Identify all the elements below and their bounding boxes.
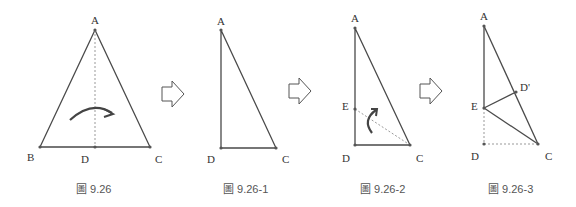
figure-9-26-1: A D C 圖 9.26-1 [207, 15, 289, 195]
transition-arrow-icon [420, 78, 442, 104]
label-d: D [81, 153, 89, 165]
figure-9-26-2: A E D C 圖 9.26-2 [342, 12, 423, 195]
label-d: D [207, 153, 215, 165]
transition-arrow-icon [289, 78, 311, 104]
label-a: A [351, 12, 359, 24]
fold-arrow-icon [368, 110, 376, 133]
label-e: E [342, 100, 349, 112]
label-d: D [342, 152, 350, 164]
label-c: C [155, 153, 162, 165]
caption-9-26-1: 圖 9.26-1 [223, 183, 268, 195]
label-c: C [416, 152, 423, 164]
label-d-prime: D' [520, 81, 530, 93]
caption-9-26: 圖 9.26 [76, 183, 111, 195]
figure-9-26-3: A E D' D C 圖 9.26-3 [471, 10, 552, 195]
caption-9-26-2: 圖 9.26-2 [360, 183, 405, 195]
label-a: A [91, 14, 99, 26]
transition-arrow-icon [162, 81, 184, 107]
segment-ed-prime [484, 92, 516, 108]
label-c: C [282, 153, 289, 165]
label-a: A [480, 10, 488, 22]
triangle-adc [221, 30, 276, 148]
caption-9-26-3: 圖 9.26-3 [488, 183, 533, 195]
label-a: A [217, 15, 225, 27]
label-e: E [471, 100, 478, 112]
figure-9-26: A B D C 圖 9.26 [27, 14, 162, 195]
label-d: D [471, 150, 479, 162]
label-b: B [27, 151, 34, 163]
label-c: C [545, 150, 552, 162]
geometry-folding-diagram: A B D C 圖 9.26 A D C 圖 9.26-1 A E D C 圖 … [0, 0, 576, 207]
